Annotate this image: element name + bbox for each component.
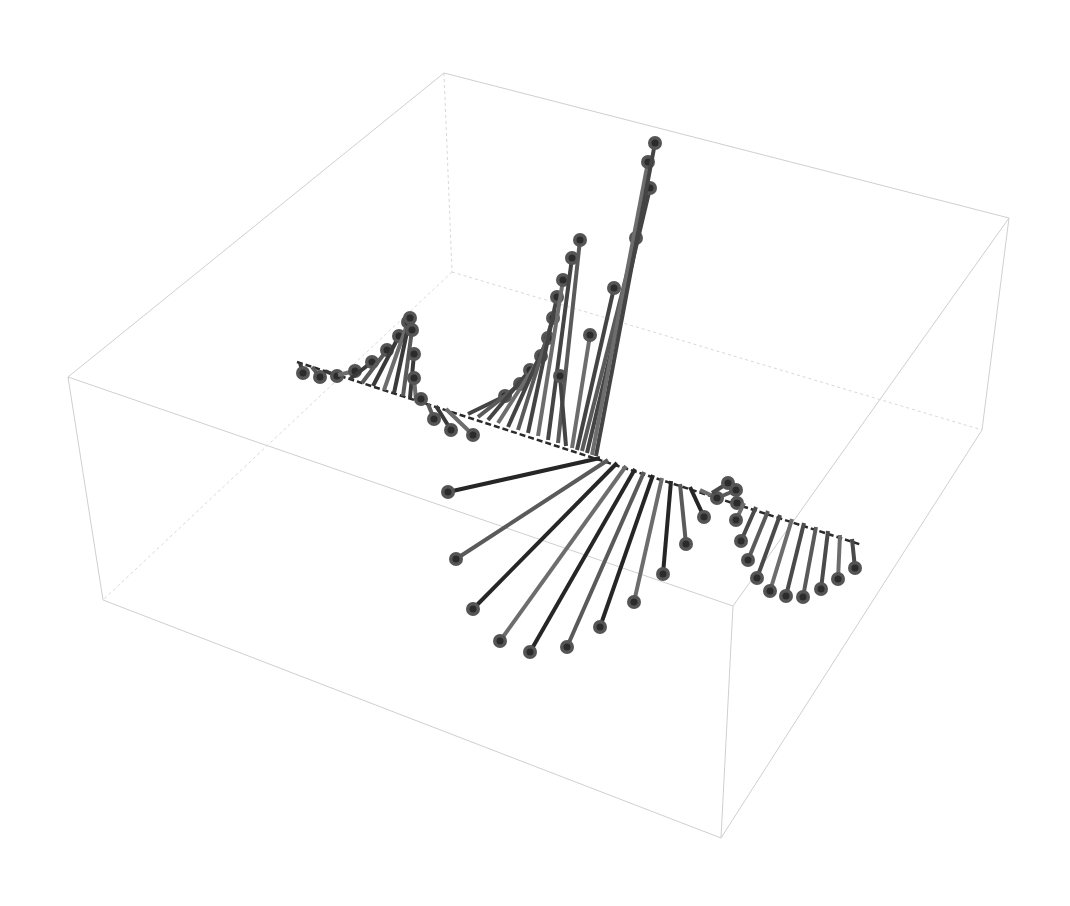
stem-marker-core xyxy=(725,480,732,487)
stem-marker-core xyxy=(754,575,761,582)
stem-marker-core xyxy=(470,432,477,439)
plot-canvas[interactable] xyxy=(0,0,1070,906)
stem-line xyxy=(680,484,686,544)
stem-marker-core xyxy=(734,500,741,507)
series-left-wave xyxy=(296,311,480,442)
stem-marker-core xyxy=(560,277,567,284)
stem-marker-core xyxy=(701,514,708,521)
stem-marker-core xyxy=(767,588,774,595)
stem-marker-core xyxy=(733,487,740,494)
stem-marker-core xyxy=(411,375,418,382)
stems xyxy=(296,136,862,659)
stem-line xyxy=(567,472,644,647)
stem-marker-core xyxy=(852,565,859,572)
stem-marker-core xyxy=(497,638,504,645)
stem-line xyxy=(803,527,816,597)
stem-marker-core xyxy=(611,285,618,292)
stem-marker-core xyxy=(470,606,477,613)
stem-line xyxy=(448,458,600,492)
stem-plot-3d[interactable] xyxy=(0,0,1070,906)
stem-marker-core xyxy=(300,370,307,377)
stem-line xyxy=(596,143,655,456)
stem-marker-core xyxy=(445,489,452,496)
box-edge xyxy=(68,377,103,600)
stem-marker-core xyxy=(418,396,425,403)
stem-marker-core xyxy=(597,624,604,631)
stem-marker-core xyxy=(453,556,460,563)
box-edge-hidden xyxy=(452,272,982,430)
stem-marker-core xyxy=(818,586,825,593)
stem-marker-core xyxy=(431,416,438,423)
box-edge xyxy=(444,73,1009,218)
stem-marker-core xyxy=(631,599,638,606)
series-down-fan xyxy=(441,458,724,659)
stem-marker-core xyxy=(407,315,414,322)
box-edge xyxy=(721,606,733,838)
stem-marker-core xyxy=(660,571,667,578)
stem-marker-core xyxy=(835,576,842,583)
stem-marker-core xyxy=(569,255,576,262)
stem-line xyxy=(592,162,648,455)
box-edge xyxy=(721,430,982,838)
stem-marker-core xyxy=(652,140,659,147)
series-up-fan xyxy=(468,136,662,456)
stem-marker-core xyxy=(411,351,418,358)
bounding-box xyxy=(68,73,1009,838)
stem-marker-core xyxy=(738,538,745,545)
stem-marker-core xyxy=(587,332,594,339)
stem-marker-core xyxy=(448,427,455,434)
stem-marker-core xyxy=(783,593,790,600)
stem-line xyxy=(821,531,828,589)
box-edge xyxy=(68,73,444,377)
stem-marker-core xyxy=(527,649,534,656)
stem-marker-core xyxy=(683,541,690,548)
stem-marker-core xyxy=(564,644,571,651)
series-right-fan xyxy=(712,476,862,604)
stem-marker-core xyxy=(714,495,721,502)
stem-marker-core xyxy=(733,517,740,524)
stem-line xyxy=(663,481,671,574)
box-edge-hidden xyxy=(103,272,452,600)
stem-marker-core xyxy=(800,594,807,601)
stem-line xyxy=(634,478,662,602)
stem-marker-core xyxy=(745,557,752,564)
box-edge xyxy=(733,218,1009,606)
stem-marker-core xyxy=(557,373,564,380)
stem-marker-core xyxy=(317,374,324,381)
box-edge xyxy=(103,600,721,838)
box-edge-hidden xyxy=(444,73,452,272)
stem-marker-core xyxy=(577,237,584,244)
stem-marker-core xyxy=(409,327,416,334)
